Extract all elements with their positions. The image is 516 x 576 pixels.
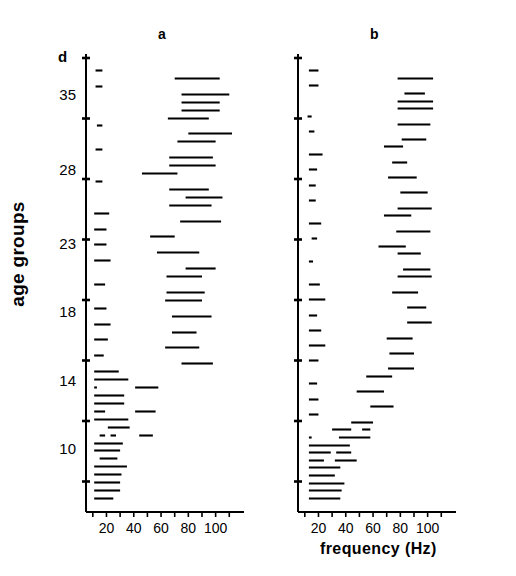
x-tick-label-a-80: 80 — [173, 520, 203, 536]
x-tick-label-a-60: 60 — [146, 520, 176, 536]
x-tick-label-b-20: 20 — [303, 520, 333, 536]
x-tick-label-b-60: 60 — [358, 520, 388, 536]
d-axis-label: d — [58, 48, 67, 65]
y-tick-label-18: 18 — [46, 303, 76, 320]
x-tick-label-a-40: 40 — [119, 520, 149, 536]
x-axis-title: frequency (Hz) — [320, 540, 437, 558]
x-tick-label-b-80: 80 — [385, 520, 415, 536]
panel-b-label: b — [370, 26, 379, 42]
y-tick-label-28: 28 — [46, 161, 76, 178]
y-tick-label-35: 35 — [46, 86, 76, 103]
figure-canvas: age groups d a b frequency (Hz) 20406080… — [0, 0, 516, 576]
x-tick-label-a-100: 100 — [201, 520, 231, 536]
y-tick-label-10: 10 — [46, 440, 76, 457]
x-tick-label-b-40: 40 — [331, 520, 361, 536]
y-tick-label-23: 23 — [46, 235, 76, 252]
y-tick-label-14: 14 — [46, 372, 76, 389]
plot-svg — [0, 0, 516, 576]
x-tick-label-a-20: 20 — [91, 520, 121, 536]
y-axis-title: age groups — [7, 174, 29, 334]
x-tick-label-b-100: 100 — [413, 520, 443, 536]
panel-a-label: a — [158, 26, 166, 42]
